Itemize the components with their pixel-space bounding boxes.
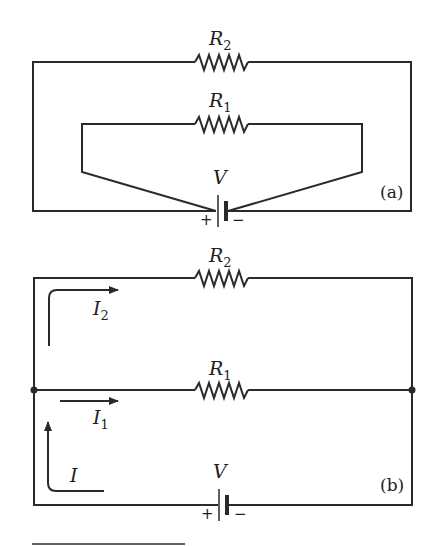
battery-a — [218, 195, 226, 227]
outer-wire-a — [33, 62, 411, 211]
minus-sign-a: − — [232, 211, 245, 229]
label-r1-b: R1 — [208, 357, 232, 383]
label-r2-a: R2 — [208, 27, 232, 53]
label-r1-a: R1 — [208, 89, 232, 115]
panel-label-b: (b) — [380, 475, 404, 495]
resistor-r1-a — [195, 117, 248, 132]
circuit-diagrams: R2 R1 V + − (a) R2 R1 I2 I1 I — [0, 0, 435, 546]
label-r2-b: R2 — [208, 244, 232, 270]
plus-sign-b: + — [201, 505, 214, 523]
junction-right — [409, 387, 416, 394]
label-i1: I1 — [92, 406, 109, 432]
label-v-b: V — [213, 460, 229, 482]
minus-sign-b: − — [234, 505, 247, 523]
label-i: I — [69, 464, 78, 486]
plus-sign-a: + — [200, 211, 213, 229]
panel-label-a: (a) — [380, 182, 403, 202]
label-v-a: V — [213, 166, 229, 188]
junction-left — [31, 387, 38, 394]
resistor-r2-b — [195, 271, 248, 286]
battery-b — [219, 489, 227, 521]
diagram-b: R2 R1 I2 I1 I V + − (b) — [31, 244, 416, 523]
resistor-r2-a — [195, 55, 248, 70]
label-i2: I2 — [92, 297, 109, 323]
diagram-a: R2 R1 V + − (a) — [33, 27, 411, 229]
resistor-r1-b — [195, 383, 248, 398]
